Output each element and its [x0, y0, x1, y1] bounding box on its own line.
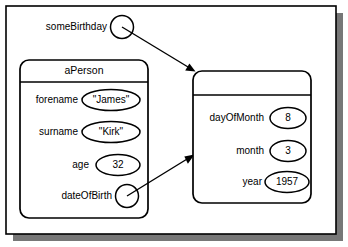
diagram-canvas: someBirthday aPerson forename "James" su…: [0, 0, 348, 247]
person-attr-name-date-of-birth: dateOfBirth: [61, 190, 112, 201]
person-attr-name-surname: surname: [39, 126, 78, 137]
date-attr-name-year: year: [243, 176, 263, 187]
person-attr-value-surname: "Kirk": [99, 126, 124, 137]
person-attr-name-age: age: [72, 159, 89, 170]
date-attr-name-day-of-month: dayOfMonth: [210, 112, 264, 123]
person-attr-value-age: 32: [112, 159, 124, 170]
date-attr-value-year: 1957: [276, 176, 299, 187]
person-attr-name-forename: forename: [36, 94, 79, 105]
person-object-name: aPerson: [64, 64, 103, 76]
date-attr-value-day-of-month: 8: [285, 112, 291, 123]
date-attr-name-month: month: [236, 145, 264, 156]
person-attr-value-forename: "James": [93, 94, 130, 105]
date-attr-value-month: 3: [285, 145, 291, 156]
uml-object-diagram: someBirthday aPerson forename "James" su…: [0, 0, 348, 247]
some-birthday-label: someBirthday: [46, 21, 107, 32]
